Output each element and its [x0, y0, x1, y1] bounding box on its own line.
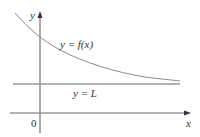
limit-diagram: y x 0 y = f(x) y = L — [0, 0, 200, 137]
y-axis-arrow-icon — [38, 11, 43, 18]
curve-label: y = f(x) — [60, 39, 93, 50]
origin-label: 0 — [31, 118, 37, 129]
x-axis-label: x — [186, 118, 191, 129]
asymptote-label: y = L — [73, 88, 97, 99]
x-axis-arrow-icon — [184, 111, 191, 116]
y-axis-label: y — [30, 10, 35, 21]
